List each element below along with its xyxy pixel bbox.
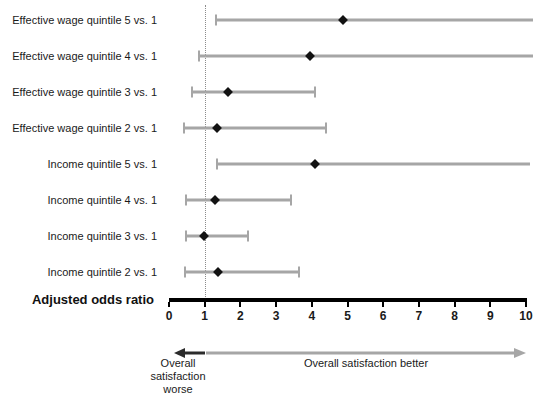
arrow-right-icon bbox=[206, 344, 526, 354]
forest-plot: Adjusted odds ratio 012345678910 Overall… bbox=[0, 0, 546, 400]
axis-tick-label: 8 bbox=[451, 310, 458, 323]
axis-tick bbox=[489, 302, 491, 307]
axis-tick bbox=[418, 302, 420, 307]
ci-cap-lower bbox=[185, 195, 187, 206]
point-estimate-marker bbox=[310, 159, 320, 169]
axis-tick-label: 5 bbox=[344, 310, 351, 323]
ci-cap-lower bbox=[184, 267, 186, 278]
point-estimate-marker bbox=[223, 87, 233, 97]
ci-cap-upper bbox=[298, 267, 300, 278]
axis-tick-label: 4 bbox=[308, 310, 315, 323]
row-label: Effective wage quintile 2 vs. 1 bbox=[12, 123, 157, 134]
ci-cap-upper bbox=[290, 195, 292, 206]
row-label: Income quintile 4 vs. 1 bbox=[48, 195, 157, 206]
point-estimate-marker bbox=[199, 231, 209, 241]
ci-cap-lower bbox=[191, 87, 193, 98]
axis-tick-label: 3 bbox=[273, 310, 280, 323]
caption-worse: Overall satisfaction worse bbox=[150, 357, 206, 396]
point-estimate-marker bbox=[338, 15, 348, 25]
confidence-interval-line bbox=[199, 55, 533, 58]
reference-line-or-1 bbox=[205, 5, 206, 301]
axis-tick bbox=[239, 302, 241, 307]
ci-cap-lower bbox=[198, 51, 200, 62]
ci-cap-lower bbox=[183, 123, 185, 134]
ci-cap-upper bbox=[314, 87, 316, 98]
confidence-interval-line bbox=[184, 127, 326, 130]
axis-tick bbox=[204, 302, 206, 307]
axis-tick-label: 7 bbox=[416, 310, 423, 323]
row-label: Effective wage quintile 5 vs. 1 bbox=[12, 15, 157, 26]
ci-cap-lower bbox=[185, 231, 187, 242]
axis-title: Adjusted odds ratio bbox=[32, 293, 154, 307]
axis-tick bbox=[347, 302, 349, 307]
confidence-interval-line bbox=[217, 163, 529, 166]
ci-cap-lower bbox=[215, 15, 217, 26]
point-estimate-marker bbox=[305, 51, 315, 61]
axis-tick bbox=[525, 302, 527, 307]
row-label: Income quintile 5 vs. 1 bbox=[48, 159, 157, 170]
axis-tick-label: 6 bbox=[380, 310, 387, 323]
row-label: Effective wage quintile 4 vs. 1 bbox=[12, 51, 157, 62]
point-estimate-marker bbox=[213, 267, 223, 277]
row-label: Effective wage quintile 3 vs. 1 bbox=[12, 87, 157, 98]
confidence-interval-line bbox=[192, 91, 315, 94]
confidence-interval-line bbox=[216, 19, 533, 22]
axis-tick-label: 9 bbox=[487, 310, 494, 323]
point-estimate-marker bbox=[212, 123, 222, 133]
row-label: Income quintile 2 vs. 1 bbox=[48, 267, 157, 278]
axis-tick bbox=[311, 302, 313, 307]
axis-tick-label: 10 bbox=[519, 310, 532, 323]
arrow-left-icon bbox=[174, 344, 205, 354]
ci-cap-upper bbox=[247, 231, 249, 242]
row-label: Income quintile 3 vs. 1 bbox=[48, 231, 157, 242]
axis-tick-label: 2 bbox=[237, 310, 244, 323]
confidence-interval-line bbox=[185, 271, 299, 274]
axis-tick bbox=[382, 302, 384, 307]
axis-tick-label: 1 bbox=[201, 310, 208, 323]
axis-tick-label: 0 bbox=[166, 310, 173, 323]
axis-tick bbox=[275, 302, 277, 307]
caption-better: Overall satisfaction better bbox=[226, 357, 506, 370]
axis-tick bbox=[454, 302, 456, 307]
axis-tick bbox=[168, 302, 170, 307]
ci-cap-lower bbox=[216, 159, 218, 170]
ci-cap-upper bbox=[325, 123, 327, 134]
confidence-interval-line bbox=[186, 235, 248, 238]
point-estimate-marker bbox=[210, 195, 220, 205]
confidence-interval-line bbox=[186, 199, 291, 202]
